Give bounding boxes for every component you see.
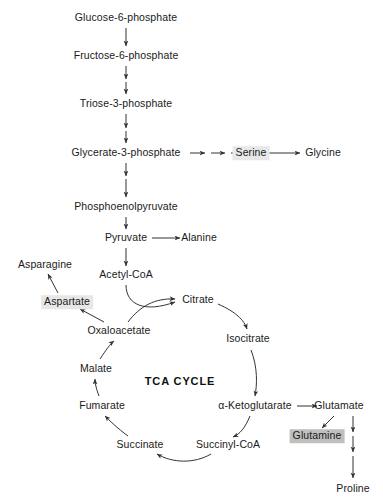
node-glucose6p: Glucose-6-phosphate xyxy=(75,12,177,24)
metabolic-pathway-diagram: Glucose-6-phosphate Fructose-6-phosphate… xyxy=(0,0,383,503)
node-succinyl-coa: Succinyl-CoA xyxy=(196,439,260,451)
node-phosphoenolpyruvate: Phosphoenolpyruvate xyxy=(74,201,177,213)
node-alpha-ketoglutarate: α-Ketoglutarate xyxy=(218,400,292,412)
node-citrate: Citrate xyxy=(182,294,214,306)
tca-cycle-label: TCA CYCLE xyxy=(145,375,216,387)
node-malate: Malate xyxy=(80,363,112,375)
node-glycerate3p: Glycerate-3-phosphate xyxy=(72,147,181,159)
node-succinate: Succinate xyxy=(116,439,163,451)
node-fumarate: Fumarate xyxy=(79,400,125,412)
node-glycine: Glycine xyxy=(305,147,341,159)
arrow-succinate-fumarate xyxy=(105,416,128,436)
node-proline: Proline xyxy=(336,483,369,495)
arrow-glutamate-glutamine xyxy=(322,416,334,428)
node-glutamine: Glutamine xyxy=(290,429,345,443)
node-pyruvate: Pyruvate xyxy=(105,232,147,244)
arrow-succinylcoa-succinate xyxy=(157,454,211,461)
node-alanine: Alanine xyxy=(181,232,217,244)
arrow-aspartate-asparagine xyxy=(48,274,58,293)
arrow-ketoglutarate-succinylcoa xyxy=(233,416,250,437)
node-glutamate: Glutamate xyxy=(314,400,363,412)
arrow-malate-oxaloacetate xyxy=(100,341,114,359)
node-aspartate: Aspartate xyxy=(41,295,93,309)
arrow-oxaloacetate-aspartate xyxy=(80,309,104,322)
node-asparagine: Asparagine xyxy=(18,259,72,271)
node-oxaloacetate: Oxaloacetate xyxy=(87,325,150,337)
node-acetyl-coa: Acetyl-CoA xyxy=(99,269,153,281)
node-fructose6p: Fructose-6-phosphate xyxy=(74,50,179,62)
arrow-isocitrate-ketoglutarate xyxy=(251,350,256,396)
node-isocitrate: Isocitrate xyxy=(226,333,270,345)
node-serine: Serine xyxy=(233,146,270,160)
arrow-citrate-isocitrate xyxy=(218,304,247,329)
arrow-oxaloacetate-citrate xyxy=(128,299,175,322)
pathway-arrows xyxy=(0,0,383,503)
arrow-fumarate-malate xyxy=(95,379,99,396)
node-triose3p: Triose-3-phosphate xyxy=(80,98,172,110)
